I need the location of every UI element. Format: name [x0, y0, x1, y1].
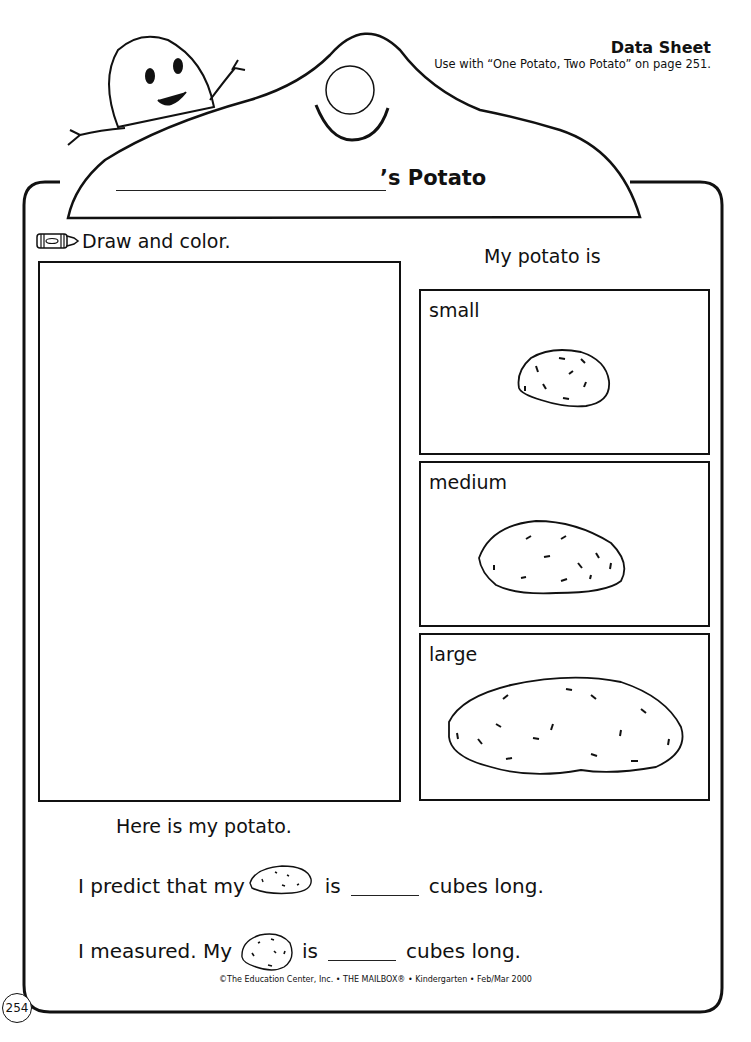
size-label: small: [429, 299, 480, 321]
draw-instruction: Draw and color.: [82, 230, 231, 252]
student-name-blank[interactable]: [116, 190, 386, 191]
drawing-caption: Here is my potato.: [116, 815, 292, 837]
size-option-large[interactable]: large: [419, 633, 710, 801]
potato-icon: [247, 863, 315, 897]
measurement-prefix: I measured. My: [78, 939, 232, 963]
page-number: 254: [2, 993, 32, 1023]
measurement-blank[interactable]: [328, 942, 396, 961]
crayon-icon: [36, 232, 80, 250]
prediction-sentence: I predict that my is cubes long.: [78, 874, 544, 898]
size-label: large: [429, 643, 477, 665]
data-sheet-heading: Data Sheet: [611, 38, 711, 57]
size-label: medium: [429, 471, 507, 493]
size-option-medium[interactable]: medium: [419, 461, 710, 627]
measurement-suffix: cubes long.: [406, 939, 521, 963]
drawing-area[interactable]: [38, 261, 401, 802]
potato-icon: [238, 929, 296, 973]
large-potato-icon: [441, 667, 691, 787]
reference-note: Use with “One Potato, Two Potato” on pag…: [434, 57, 711, 71]
sheet-title: ’s Potato: [380, 166, 486, 190]
prediction-mid: is: [325, 874, 341, 898]
measurement-sentence: I measured. My is cubes long.: [78, 929, 521, 973]
small-potato-icon: [511, 346, 621, 416]
measurement-mid: is: [302, 939, 318, 963]
prediction-blank[interactable]: [351, 877, 419, 896]
prediction-prefix: I predict that my: [78, 874, 245, 898]
prediction-suffix: cubes long.: [429, 874, 544, 898]
size-option-small[interactable]: small: [419, 289, 710, 455]
medium-potato-icon: [476, 513, 636, 603]
size-prompt: My potato is: [484, 245, 601, 267]
copyright-footer: ©The Education Center, Inc. • THE MAILBO…: [0, 975, 751, 984]
